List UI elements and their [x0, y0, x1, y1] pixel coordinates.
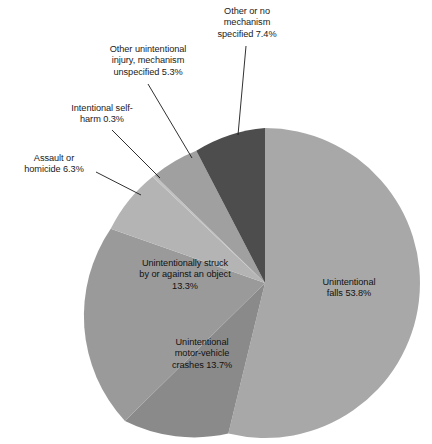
slice-label-struck-by-object: Unintentionally struck by or against an …: [121, 258, 249, 292]
slice-label-assault-homicide: Assault or homicide 6.3%: [6, 153, 102, 176]
leader-line-other-unintentional: [148, 84, 192, 158]
slice-label-motor-vehicle-crashes: Unintentional motor-vehicle crashes 13.7…: [152, 337, 252, 371]
leader-line-assault: [96, 172, 141, 195]
slice-label-other-unintentional-injury: Other unintentional injury, mechanism un…: [84, 44, 212, 78]
slice-label-intentional-self-harm: Intentional self- harm 0.3%: [52, 103, 152, 126]
slice-label-unintentional-falls: Unintentional falls 53.8%: [303, 277, 395, 300]
leader-line-other-no-mechanism: [238, 46, 246, 135]
pie-chart-svg: [0, 0, 432, 444]
leader-line-self-harm: [112, 130, 160, 178]
slice-label-other-no-mechanism: Other or no mechanism specified 7.4%: [192, 6, 302, 40]
pie-chart-figure: Other or no mechanism specified 7.4% Oth…: [0, 0, 432, 444]
